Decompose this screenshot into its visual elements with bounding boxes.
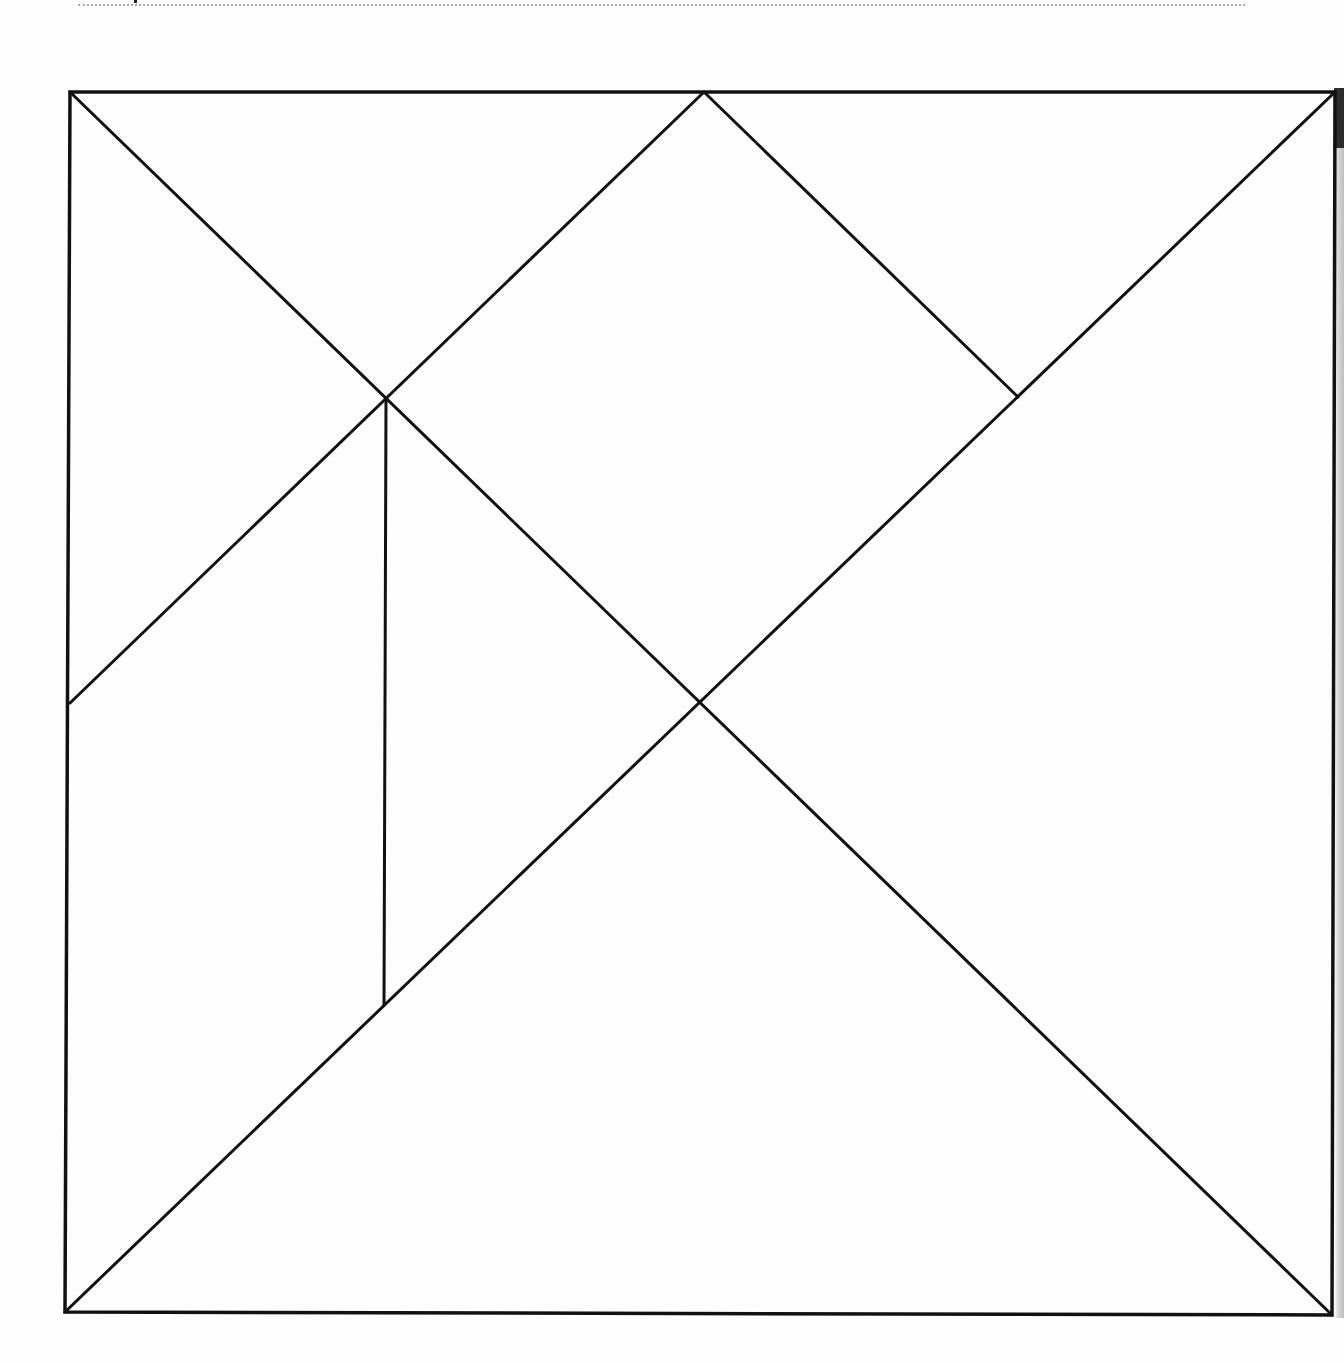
scanned-page: Tangram square outline [0,0,1344,1363]
tangram-diagram [0,0,1344,1363]
line-vertical-inner [384,398,386,1005]
